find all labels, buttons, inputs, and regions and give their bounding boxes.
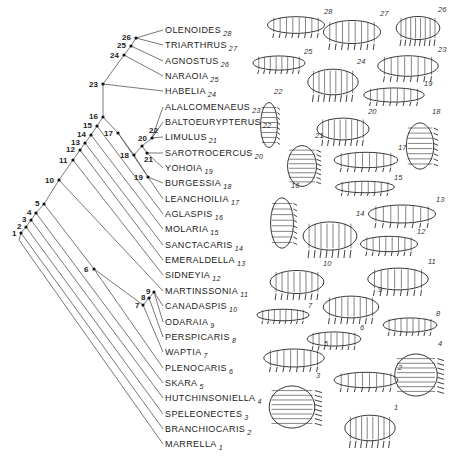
illustration-number: 1 [394, 404, 398, 412]
illustration-number: 16 [291, 182, 299, 190]
fossil-sketch [368, 268, 428, 296]
fossil-sketch [307, 332, 361, 350]
fossil-sketch [345, 415, 395, 448]
illustration-number: 11 [428, 258, 436, 266]
illustration-number: 14 [356, 210, 364, 218]
illustration-number: 20 [368, 108, 376, 116]
fossil-sketch [271, 198, 297, 248]
illustration-number: 4 [438, 340, 442, 348]
illustration-number: 7 [308, 302, 312, 310]
illustration-number: 27 [380, 10, 388, 18]
fossil-sketch [334, 152, 398, 172]
fossil-sketch [317, 118, 369, 146]
fossil-sketch [383, 318, 437, 336]
fossil-sketch [267, 17, 324, 38]
fossil-sketch [308, 69, 358, 102]
illustration-number: 25 [304, 48, 312, 56]
fossil-sketch [406, 123, 438, 169]
illustration-number: 26 [438, 6, 446, 14]
fossil-sketch [360, 236, 417, 256]
fossil-sketch [323, 20, 380, 50]
illustration-number: 2 [398, 364, 402, 372]
fossil-sketch [261, 103, 280, 148]
illustration-number: 17 [398, 144, 406, 152]
illustration-number: 15 [394, 174, 402, 182]
fossil-sketch [395, 354, 444, 396]
illustration-number: 22 [274, 88, 282, 96]
fossil-sketch [323, 296, 378, 324]
fossil-sketch [270, 270, 324, 300]
fossil-sketch [264, 349, 324, 372]
illustration-number: 18 [432, 108, 440, 116]
illustration-number: 5 [324, 340, 328, 348]
illustration-number: 13 [436, 196, 444, 204]
illustration-number: 12 [417, 228, 425, 236]
fossil-sketch [368, 205, 435, 228]
cladogram-figure: OLENOIDES28TRIARTHRUS27AGNOSTUS26NARAOIA… [0, 0, 458, 463]
illustration-number: 6 [360, 324, 364, 332]
illustration-number: 21 [315, 132, 323, 140]
illustration-number: 3 [316, 372, 320, 380]
illustration-number: 28 [324, 8, 332, 16]
fossil-sketch [364, 88, 424, 106]
fossil-sketch [269, 386, 322, 428]
illustration-number: 9 [378, 286, 382, 294]
fossil-sketch [334, 372, 398, 392]
illustration-number: 24 [357, 58, 365, 66]
fossil-sketch [253, 56, 305, 74]
illustration-number: 10 [323, 260, 331, 268]
fossil-sketch [396, 16, 440, 46]
fossil-illustrations [0, 0, 458, 463]
fossil-sketch [303, 222, 357, 258]
illustration-number: 23 [438, 46, 446, 54]
illustration-number: 19 [424, 80, 432, 88]
illustration-number: 8 [436, 310, 440, 318]
fossil-sketch [336, 181, 395, 196]
fossil-sketch [257, 309, 309, 324]
